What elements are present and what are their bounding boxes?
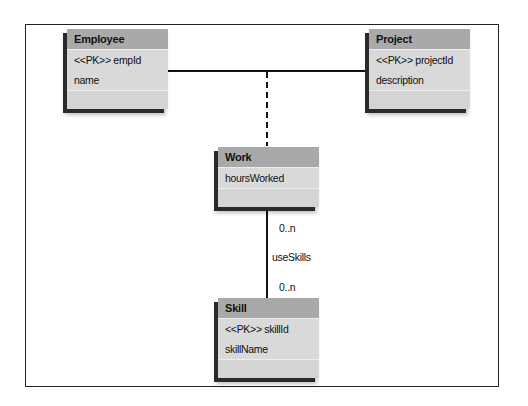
entity-attribute: <<PK>> empId	[67, 49, 168, 70]
entity-operations-compartment	[218, 188, 319, 207]
entity-attribute: <<PK>> projectId	[369, 49, 470, 70]
entity-skill[interactable]: Skill <<PK>> skillId skillName	[218, 298, 319, 378]
entity-title: Project	[369, 29, 470, 49]
entity-work[interactable]: Work hoursWorked	[218, 147, 319, 207]
entity-attribute: description	[369, 70, 470, 90]
entity-title: Work	[218, 147, 319, 167]
entity-project[interactable]: Project <<PK>> projectId description	[369, 29, 470, 109]
relationship-name-useskills: useSkills	[272, 251, 311, 263]
entity-operations-compartment	[369, 90, 470, 109]
entity-attribute: hoursWorked	[218, 167, 319, 188]
multiplicity-work-end: 0..n	[279, 222, 295, 234]
multiplicity-skill-end: 0..n	[279, 281, 295, 293]
entity-operations-compartment	[67, 90, 168, 109]
entity-attribute: name	[67, 70, 168, 90]
entity-title: Employee	[67, 29, 168, 49]
entity-attribute: <<PK>> skillId	[218, 318, 319, 339]
entity-employee[interactable]: Employee <<PK>> empId name	[67, 29, 168, 109]
entity-operations-compartment	[218, 359, 319, 378]
entity-attribute: skillName	[218, 339, 319, 359]
entity-title: Skill	[218, 298, 319, 318]
